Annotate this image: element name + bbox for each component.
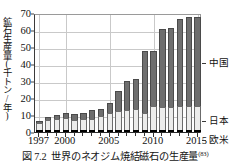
bar-segment-japan-2000 [63, 118, 69, 130]
legend-label-china: 中国 [209, 58, 228, 68]
bar-segment-west-2008 [133, 130, 139, 132]
bar-segment-japan-1998 [45, 120, 51, 130]
bar-segment-japan-2003 [89, 119, 95, 130]
caption-reference: (83) [198, 150, 208, 157]
figure-container: 鉱石生産量(千トン/年) 010203040506070 19972000200… [0, 0, 229, 161]
bar-2009 [142, 51, 148, 132]
bar-segment-west-2006 [115, 130, 121, 132]
bar-2001 [71, 114, 77, 132]
bar-segment-west-2013 [177, 130, 183, 132]
bar-segment-china-2013 [177, 19, 183, 106]
bar-segment-japan-2002 [80, 119, 86, 130]
y-tick-label-50: 50 [21, 42, 32, 53]
bar-1999 [54, 115, 60, 132]
caption-number: 図 7.2 [22, 151, 46, 161]
bar-segment-west-2012 [168, 130, 174, 132]
bar-segment-japan-2005 [107, 113, 113, 130]
x-tick-label-2005: 2005 [98, 135, 119, 146]
bar-2004 [98, 109, 104, 132]
bar-2003 [89, 110, 95, 132]
bar-segment-west-2004 [98, 130, 104, 132]
bar-2014 [186, 17, 192, 132]
bar-segment-japan-2013 [177, 106, 183, 130]
bar-segment-china-2006 [115, 91, 121, 111]
bar-segment-japan-1997 [36, 123, 42, 130]
legend-label-west: 欧米 [209, 135, 228, 145]
x-axis-labels: 19972000200520102015 [0, 135, 229, 148]
bar-segment-west-2011 [159, 130, 165, 132]
bar-segment-west-2002 [80, 130, 86, 132]
bar-segment-japan-2011 [159, 107, 165, 130]
bar-segment-japan-2008 [133, 109, 139, 130]
bar-1997 [36, 121, 42, 132]
bar-2013 [177, 19, 183, 132]
bar-segment-west-1999 [54, 130, 60, 132]
bar-segment-china-2015 [194, 17, 200, 106]
bar-segment-west-2005 [107, 130, 113, 132]
legend-label-japan: 日本 [209, 116, 228, 126]
bar-segment-japan-1999 [54, 119, 60, 130]
bar-segment-japan-2001 [71, 120, 77, 130]
bar-2007 [124, 81, 130, 132]
x-tick-label-2010: 2010 [142, 135, 163, 146]
bar-segment-west-2007 [124, 130, 130, 132]
bar-segment-west-2001 [71, 130, 77, 132]
y-tick-label-30: 30 [21, 77, 32, 88]
y-tick-label-10: 10 [21, 111, 32, 122]
bar-segment-japan-2009 [142, 113, 148, 130]
y-tick-label-20: 20 [21, 94, 32, 105]
bar-2005 [107, 103, 113, 132]
bar-segment-china-2008 [133, 79, 139, 109]
bar-segment-japan-2014 [186, 106, 192, 130]
legend-tick-west [202, 140, 206, 141]
legend-tick-japan [202, 121, 206, 122]
bar-series-group [35, 15, 200, 133]
bar-segment-west-2000 [63, 130, 69, 132]
bar-1998 [45, 117, 51, 132]
bar-2011 [159, 29, 165, 132]
bar-2015 [194, 17, 200, 132]
bar-segment-china-2005 [107, 103, 113, 113]
bar-segment-west-2003 [89, 130, 95, 132]
bar-segment-china-2009 [142, 51, 148, 112]
bar-segment-west-2014 [186, 130, 192, 132]
bar-segment-west-1997 [36, 130, 42, 132]
bar-segment-china-2012 [168, 28, 174, 107]
bar-segment-china-2014 [186, 17, 192, 105]
bar-2002 [80, 113, 86, 132]
bar-segment-china-2011 [159, 29, 165, 107]
bar-segment-west-1998 [45, 130, 51, 132]
legend-tick-china [202, 63, 206, 64]
y-tick-label-40: 40 [21, 59, 32, 70]
bar-segment-west-2009 [142, 130, 148, 132]
bar-segment-japan-2007 [124, 110, 130, 130]
x-tick-label-1997: 1997 [28, 135, 49, 146]
y-tick-label-60: 60 [21, 25, 32, 36]
bar-2000 [63, 113, 69, 132]
x-tick-label-2000: 2000 [54, 135, 75, 146]
bar-2008 [133, 79, 139, 132]
bar-segment-west-2015 [194, 130, 200, 132]
bar-segment-japan-2015 [194, 106, 200, 130]
bar-segment-china-2007 [124, 81, 130, 110]
figure-caption: 図 7.2世界のネオジム焼結磁石の生産量(83) [22, 148, 229, 161]
bar-segment-china-2003 [89, 110, 95, 119]
bar-segment-west-2010 [150, 130, 156, 132]
bar-segment-japan-2010 [150, 106, 156, 130]
caption-text: 世界のネオジム焼結磁石の生産量 [51, 151, 198, 161]
bar-segment-japan-2004 [98, 116, 104, 130]
bar-2012 [168, 28, 174, 132]
y-tick-label-70: 70 [21, 8, 32, 19]
bar-2006 [115, 91, 121, 132]
bar-segment-japan-2012 [168, 107, 174, 130]
bar-segment-china-2010 [150, 51, 156, 106]
bar-2010 [150, 51, 156, 132]
plot-area [34, 14, 201, 134]
bar-segment-japan-2006 [115, 111, 121, 130]
